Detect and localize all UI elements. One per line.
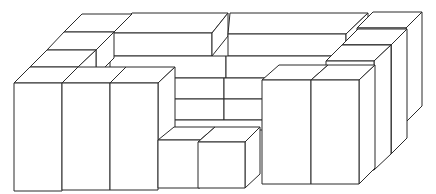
back-top-slabs <box>112 13 368 56</box>
left-tall-boxes <box>14 67 175 191</box>
right-front-tall-boxes <box>262 65 375 184</box>
box-diagram <box>0 0 436 194</box>
front-small-cubes <box>158 127 260 188</box>
